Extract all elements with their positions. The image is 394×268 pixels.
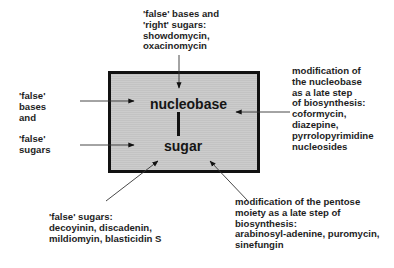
arrow-bottom-right xyxy=(210,161,248,201)
arrow-bottom-left xyxy=(106,161,158,201)
arrows-layer xyxy=(0,0,394,268)
